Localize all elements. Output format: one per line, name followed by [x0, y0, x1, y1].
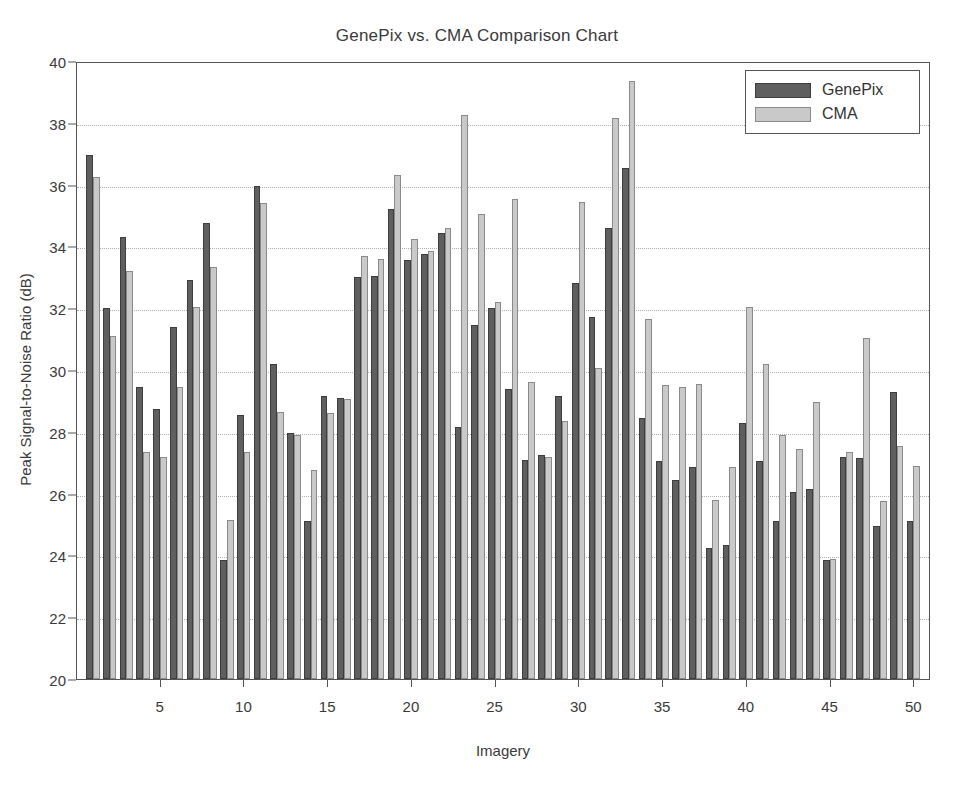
legend-label-cma: CMA [822, 105, 858, 123]
x-tick-label: 45 [821, 698, 838, 715]
y-tick-mark [68, 556, 76, 557]
bar-group [203, 63, 218, 679]
bar-group [404, 63, 419, 679]
x-tick-label: 15 [319, 698, 336, 715]
bar-cma [244, 452, 251, 679]
bar-cma [712, 500, 719, 679]
bar-genepix [136, 387, 143, 679]
y-tick-label: 38 [49, 115, 66, 132]
bar-genepix [287, 433, 294, 679]
y-tick-label: 30 [49, 363, 66, 380]
bar-cma [746, 307, 753, 679]
bar-cma [662, 385, 669, 679]
y-tick-mark [68, 432, 76, 433]
bar-genepix [404, 260, 411, 679]
bar-genepix [538, 455, 545, 679]
bar-genepix [672, 480, 679, 679]
y-tick-label: 20 [49, 672, 66, 689]
bar-cma [495, 302, 502, 679]
bar-group [455, 63, 470, 679]
bar-genepix [639, 418, 646, 679]
bar-group [187, 63, 202, 679]
bar-group [723, 63, 738, 679]
bar-cma [545, 457, 552, 679]
bar-cma [796, 449, 803, 679]
bar-cma [629, 81, 636, 679]
bar-group [505, 63, 520, 679]
y-tick-label: 22 [49, 610, 66, 627]
bar-group [120, 63, 135, 679]
bar-cma [210, 267, 217, 680]
bar-group [907, 63, 922, 679]
bar-genepix [438, 233, 445, 680]
bar-cma [562, 421, 569, 679]
x-tick-mark [160, 680, 161, 687]
x-tick-label: 35 [654, 698, 671, 715]
y-axis-label: Peak Signal-to-Noise Ratio (dB) [17, 100, 34, 660]
bar-group [840, 63, 855, 679]
bar-group [237, 63, 252, 679]
bar-cma [143, 452, 150, 679]
bar-genepix [120, 237, 127, 679]
bar-cma [177, 387, 184, 679]
y-tick-mark [68, 680, 76, 681]
bar-group [823, 63, 838, 679]
bar-genepix [622, 168, 629, 679]
bar-group [689, 63, 704, 679]
bar-group [270, 63, 285, 679]
bar-group [153, 63, 168, 679]
bar-group [706, 63, 721, 679]
bar-group [739, 63, 754, 679]
bar-genepix [237, 415, 244, 679]
bar-group [806, 63, 821, 679]
x-tick-mark [327, 680, 328, 687]
bar-group [856, 63, 871, 679]
legend: GenePix CMA [745, 70, 920, 134]
x-tick-mark [913, 680, 914, 687]
bar-cma [294, 435, 301, 679]
bar-group [572, 63, 587, 679]
bar-genepix [572, 283, 579, 679]
bar-cma [327, 413, 334, 679]
bar-cma [779, 435, 786, 679]
bar-cma [411, 239, 418, 679]
bar-cma [595, 368, 602, 679]
bar-group [773, 63, 788, 679]
x-tick-mark [243, 680, 244, 687]
bar-genepix [605, 228, 612, 679]
x-tick-label: 25 [486, 698, 503, 715]
bar-cma [579, 202, 586, 679]
chart-title: GenePix vs. CMA Comparison Chart [0, 26, 954, 46]
bar-genepix [589, 317, 596, 679]
bar-genepix [471, 325, 478, 679]
x-tick-mark [411, 680, 412, 687]
bar-cma [110, 336, 117, 679]
bar-genepix [103, 308, 110, 679]
y-tick-mark [68, 247, 76, 248]
bar-genepix [488, 308, 495, 679]
x-tick-label: 10 [235, 698, 252, 715]
bar-cma [679, 387, 686, 679]
bar-cma [160, 457, 167, 679]
bar-genepix [823, 560, 830, 679]
bar-genepix [455, 427, 462, 679]
bar-cma [528, 382, 535, 679]
bar-cma [344, 399, 351, 679]
bar-group [538, 63, 553, 679]
x-tick-label: 50 [905, 698, 922, 715]
bar-group [103, 63, 118, 679]
bar-genepix [388, 209, 395, 679]
bar-cma [361, 256, 368, 679]
bar-group [354, 63, 369, 679]
y-tick-mark [68, 371, 76, 372]
x-tick-label: 20 [403, 698, 420, 715]
bar-cma [830, 559, 837, 680]
y-tick-label: 34 [49, 239, 66, 256]
x-tick-label: 40 [737, 698, 754, 715]
bar-cma [763, 364, 770, 679]
bar-genepix [790, 492, 797, 679]
bar-cma [696, 384, 703, 679]
bar-group [672, 63, 687, 679]
bar-genepix [890, 392, 897, 679]
bar-cma [428, 251, 435, 679]
